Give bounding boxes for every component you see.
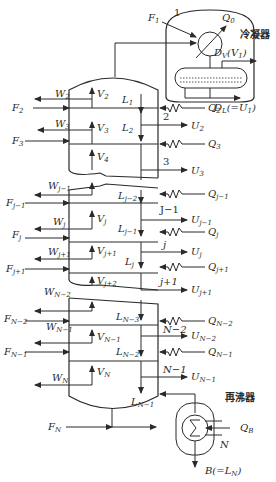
- svg-text:Uj+1: Uj+1: [191, 284, 212, 297]
- svg-text:N−1: N−1: [162, 364, 187, 375]
- svg-text:j: j: [161, 239, 166, 250]
- svg-text:Fj: Fj: [11, 229, 22, 242]
- feed-f1-label: F1: [147, 12, 159, 25]
- svg-text:VN−1: VN−1: [97, 331, 121, 344]
- svg-text:J−1: J−1: [159, 204, 179, 215]
- reboiler-label: 再沸器: [225, 391, 256, 403]
- svg-text:Lj: Lj: [124, 256, 135, 269]
- svg-text:F3: F3: [11, 135, 24, 148]
- svg-text:WN−2: WN−2: [44, 286, 71, 299]
- svg-text:Qj−1: Qj−1: [208, 188, 229, 201]
- svg-text:WN: WN: [52, 372, 69, 385]
- condenser-label: 冷凝器: [240, 28, 271, 40]
- vapor-distillate-label: DV(V1): [213, 47, 247, 60]
- svg-text:Fj−1: Fj−1: [5, 197, 25, 210]
- svg-text:FN−1: FN−1: [3, 346, 27, 359]
- reboiler: [160, 394, 230, 467]
- svg-text:L2: L2: [121, 122, 134, 135]
- svg-text:LN−3: LN−3: [115, 311, 140, 324]
- svg-text:j+1: j+1: [158, 276, 178, 287]
- svg-text:Vj+1: Vj+1: [97, 245, 117, 258]
- svg-text:N−2: N−2: [162, 324, 187, 335]
- svg-text:Lj−1: Lj−1: [117, 223, 137, 236]
- svg-text:LN−2: LN−2: [115, 346, 140, 359]
- stage-labels: 2 3 J−1 j j+1 N−2 N−1: [158, 111, 187, 375]
- stage-1-label: 1: [174, 7, 180, 18]
- column-shell: [69, 78, 158, 409]
- distillation-column-diagram: F1 1 Q0 冷凝器 DV(V1) DL(=U1): [0, 0, 276, 482]
- svg-text:Vj+2: Vj+2: [97, 275, 117, 288]
- svg-text:L1: L1: [121, 94, 133, 107]
- svg-text:2: 2: [163, 111, 169, 122]
- feed-fn-label: FN: [47, 421, 62, 434]
- bottoms-label: B(=LN): [204, 465, 241, 478]
- svg-text:W3: W3: [55, 118, 70, 131]
- reboiler-stage-label: N: [219, 439, 230, 450]
- svg-text:Wj+1: Wj+1: [48, 246, 71, 259]
- svg-text:Qj+1: Qj+1: [208, 261, 229, 274]
- svg-text:V3: V3: [97, 122, 109, 135]
- svg-text:QN−1: QN−1: [208, 346, 233, 359]
- svg-text:FN−2: FN−2: [3, 313, 28, 326]
- svg-text:3: 3: [163, 156, 169, 167]
- svg-text:Vj: Vj: [97, 213, 107, 226]
- svg-text:LN−1: LN−1: [130, 396, 154, 409]
- left-labels: W2 F2 W3 F3 Wj−1 Fj−1 Wj Fj Wj+1 Fj+1 WN…: [3, 88, 73, 385]
- svg-text:Fj+1: Fj+1: [5, 263, 25, 276]
- svg-text:UN−2: UN−2: [191, 330, 216, 343]
- svg-text:Q3: Q3: [208, 138, 221, 151]
- heat-qb-label: QB: [240, 422, 253, 435]
- svg-text:Wj−1: Wj−1: [48, 180, 71, 193]
- svg-text:QN−2: QN−2: [208, 315, 233, 328]
- svg-text:Lj−2: Lj−2: [117, 190, 138, 203]
- heat-q0-label: Q0: [222, 12, 235, 25]
- svg-text:V4: V4: [97, 151, 109, 164]
- svg-text:V2: V2: [97, 88, 109, 101]
- svg-text:UN−1: UN−1: [191, 371, 216, 384]
- svg-text:U2: U2: [191, 120, 204, 133]
- svg-text:Uj: Uj: [191, 246, 202, 259]
- svg-text:U3: U3: [191, 165, 204, 178]
- svg-text:Wj: Wj: [53, 216, 66, 229]
- bottom-feed: [66, 408, 156, 427]
- svg-text:Qj: Qj: [208, 226, 219, 239]
- svg-text:F2: F2: [11, 102, 24, 115]
- svg-text:VN: VN: [97, 366, 111, 379]
